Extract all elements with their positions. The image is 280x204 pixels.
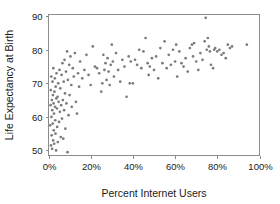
data-point [155,55,158,58]
data-point [199,52,202,55]
data-point [146,62,149,65]
data-point [108,84,111,87]
data-point [89,84,92,87]
y-axis-tick-labels: 5060708090 [32,11,43,156]
data-point [186,70,189,73]
data-point [220,53,223,56]
data-point [245,43,248,46]
data-point [54,119,57,122]
data-point [64,127,67,130]
data-point [201,58,204,61]
data-point [74,52,77,55]
data-point [101,82,104,85]
data-point [50,144,53,147]
data-point [98,72,101,75]
data-point [153,69,156,72]
data-point [210,64,213,67]
data-point [206,37,209,40]
data-point [110,43,113,46]
data-point [62,80,65,83]
data-point [229,47,232,50]
data-point [59,111,62,114]
data-point [161,62,164,65]
data-point [49,104,52,107]
data-point [50,134,53,137]
data-point [62,99,65,102]
data-point [205,48,208,51]
data-point [100,90,103,93]
data-point [56,95,59,98]
data-point [184,57,187,60]
x-axis-tick-labels: 0%20%40%60%80%100% [43,161,274,172]
x-tick-label: 60% [166,161,186,172]
y-tick-label: 60 [32,112,43,123]
data-points-layer [49,17,248,154]
data-point [49,124,52,127]
data-point [195,60,198,63]
data-point [55,149,58,152]
data-point [58,69,61,72]
data-point [104,62,107,65]
data-point [212,67,215,70]
data-point [51,147,54,150]
data-point [109,64,112,67]
data-point [52,94,55,97]
data-point [87,74,90,77]
data-point [53,90,56,93]
data-point [63,58,66,61]
data-point [107,70,110,73]
data-point [75,100,78,103]
data-point [163,40,166,43]
data-point [140,67,143,70]
data-point [56,126,59,129]
data-point [189,47,192,50]
data-point [204,17,207,20]
data-point [57,82,60,85]
data-point [117,69,120,72]
data-point [50,116,53,119]
data-point [227,43,230,46]
data-point [79,60,82,63]
data-point [192,55,195,58]
data-point [159,47,162,50]
data-point [165,67,168,70]
data-point [65,70,68,73]
data-point [71,67,74,70]
x-tick-label: 80% [208,161,228,172]
y-tick-label: 80 [32,45,43,56]
data-point [83,69,86,72]
data-point [214,47,217,50]
data-point [56,141,59,144]
data-point [70,105,73,108]
y-tick-label: 50 [32,145,43,156]
data-point [231,45,234,48]
data-point [54,132,57,135]
data-point [53,112,56,115]
data-point [224,57,227,60]
plot-frame-rect [49,15,260,156]
data-point [59,87,62,90]
data-point [203,40,206,43]
data-point [51,80,54,83]
data-point [175,43,178,46]
data-point [167,53,170,56]
data-point [142,50,145,53]
data-point [180,62,183,65]
data-point [66,50,69,53]
data-point [64,92,67,95]
data-point [70,84,73,87]
data-point [69,55,72,58]
data-point [121,58,124,61]
data-point [132,82,135,85]
data-point [78,85,81,88]
data-point [148,65,151,68]
data-point [66,151,69,154]
data-point [209,50,212,53]
data-point [52,67,55,70]
chart-canvas: 5060708090 0%20%40%60%80%100% Percent In… [0,0,280,204]
data-point [62,137,65,140]
data-point [53,77,56,80]
data-point [77,72,80,75]
x-axis-title: Percent Internet Users [101,187,206,199]
data-point [216,50,219,53]
